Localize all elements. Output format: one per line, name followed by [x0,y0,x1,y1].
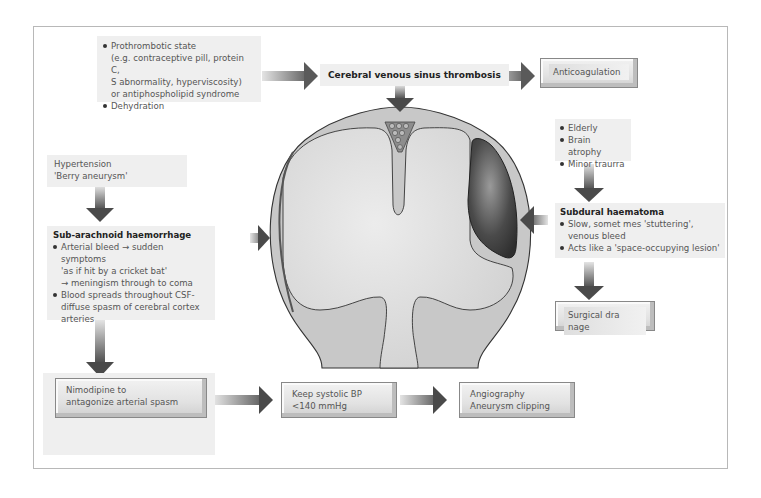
sdh-cause-elderly: Elderly [560,122,626,134]
cause-dehydration: Dehydration [103,100,255,112]
arrow-sah-to-nimodipine [86,320,114,377]
cvst-title: Cerebral venous sinus thrombosis [320,64,509,86]
sah-cause-hypertension: Hypertension [54,158,180,170]
sah-causes-note: Hypertension 'Berry aneurysm' [47,155,187,187]
sdh-causes-note: Elderly Brain atrophy Minor traurra [555,119,631,161]
arrow-nimodipine-to-bp [214,386,273,414]
angiography-box: Angiography Aneurysm clipping [459,382,575,418]
angiography-line-2: Aneurysm clipping [470,400,564,412]
surgical-drainage-box: Surgical dra nage [555,301,655,331]
arrow-bp-to-angiography [400,386,447,414]
sah-item-csf-2: diffuse spasm of cerebral cortex [53,301,209,313]
surgical-drainage-label: Surgical dra nage [564,307,646,335]
sdh-item-slow: Slow, somet mes 'stuttering', venous ble… [560,218,698,242]
nimodipine-line-2: antagonize arterial spasm [66,396,196,408]
sdh-title: Subdural haematoma [560,206,720,218]
bp-line-2: <140 mmHg [292,400,386,412]
angiography-line-1: Angiography [470,388,564,400]
nimodipine-box: Nimodipine to antagonize arterial spasm [55,378,207,418]
sah-title: Sub-arachnoid haemorrhage [53,229,209,241]
cause-prothrombotic: Prothrombotic state [103,40,255,52]
nimodipine-line-1: Nimodipine to [66,384,196,396]
cvst-causes-note: Prothrombotic state (e.g. contraceptive … [97,36,261,102]
prothrombotic-detail-2: S abnormality, hyperviscosity) [103,76,255,88]
sdh-cause-trauma: Minor traurra [560,158,626,170]
bp-target-box: Keep systolic BP <140 mmHg [281,382,397,418]
prothrombotic-detail-1: (e.g. contraceptive pill, protein C, [103,52,255,76]
sdh-cause-atrophy: Brain atrophy [560,134,626,158]
anticoagulation-box: Anticoagulation [540,58,638,88]
prothrombotic-detail-3: or antiphospholipid syndrome [103,88,255,100]
anticoagulation-label: Anticoagulation [549,64,629,80]
arrow-causes-to-cvst [262,62,318,90]
arrow-sdh-to-drainage [574,262,604,300]
arrow-sah-to-brain [250,225,270,251]
subdural-haematoma-note: Subdural haematoma Slow, somet mes 'stut… [555,203,725,258]
sah-item-arterial-1: Arterial bleed → sudden symptoms [53,241,209,265]
sah-item-csf-1: Blood spreads throughout CSF- [53,289,209,301]
sah-item-arterial-2: 'as if hit by a cricket bat' [53,265,209,277]
sah-cause-berry: 'Berry aneurysm' [54,170,180,182]
sah-note: Sub-arachnoid haemorrhage Arterial bleed… [47,226,215,320]
bp-line-1: Keep systolic BP [292,388,386,400]
sdh-item-space-occupying: Acts like a 'space-occupying lesion' [560,242,720,254]
arrow-hypertension-to-sah [86,186,114,222]
sah-item-arterial-3: → meningism through to coma [53,277,209,289]
sah-item-csf-3: arteries [53,313,209,325]
